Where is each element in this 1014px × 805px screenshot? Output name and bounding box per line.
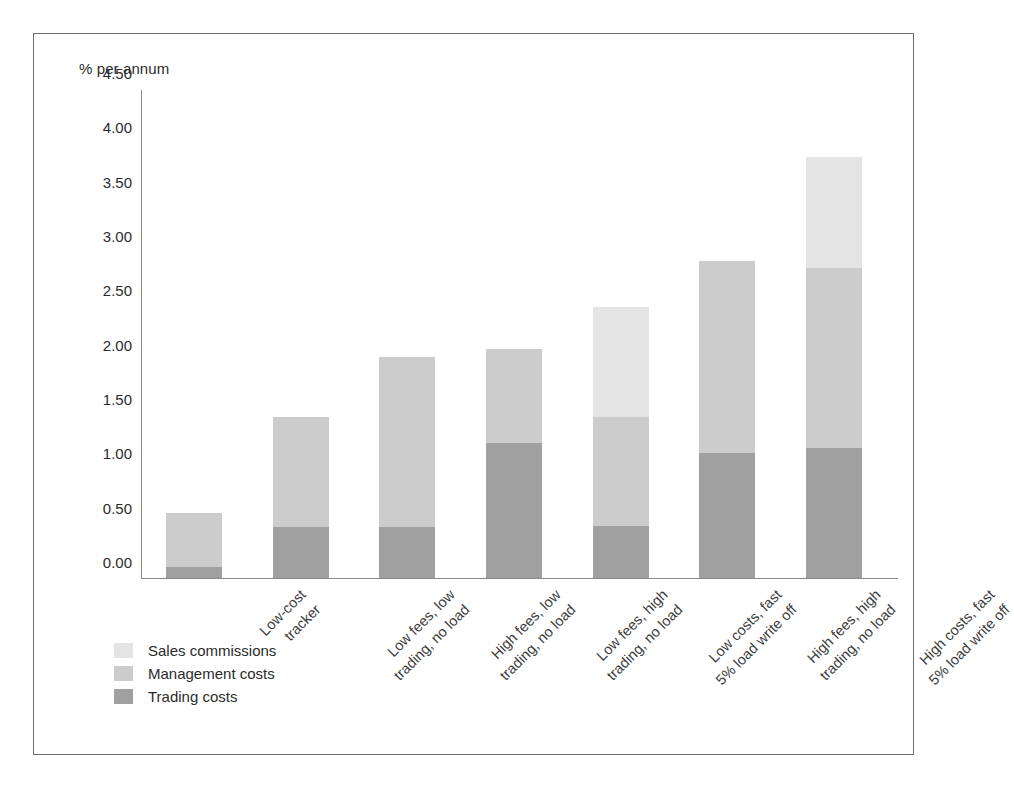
- bar-slot: [379, 90, 435, 578]
- bar-slot: [486, 90, 542, 578]
- chart-figure: % per annum 4.504.003.503.002.502.001.50…: [33, 33, 914, 755]
- bar-segment-trading-costs[interactable]: [806, 448, 862, 578]
- legend-swatch: [114, 689, 133, 704]
- y-axis-tick-label: 2.00: [103, 336, 132, 353]
- x-axis-category-label: Low fees, hightrading, no load: [587, 585, 687, 685]
- bar-segment-sales-commissions[interactable]: [806, 157, 862, 268]
- bar-segment-management-costs[interactable]: [379, 357, 435, 527]
- x-axis-category-label: High costs, fast5% load write off: [909, 585, 1014, 690]
- y-axis-tick-label: 4.50: [103, 65, 132, 82]
- y-axis-tick-label: 1.00: [103, 445, 132, 462]
- bar-slot: [806, 90, 862, 578]
- cut-off-caption-sliver: [470, 0, 770, 7]
- bar-segment-management-costs[interactable]: [486, 349, 542, 444]
- y-axis-tick-label: 4.00: [103, 119, 132, 136]
- stacked-bar[interactable]: [273, 417, 329, 578]
- legend-swatch: [114, 643, 133, 658]
- bar-slot: [593, 90, 649, 578]
- bar-segment-trading-costs[interactable]: [593, 526, 649, 578]
- bar-segment-trading-costs[interactable]: [379, 527, 435, 578]
- legend-label: Trading costs: [148, 688, 237, 705]
- x-axis-category-label: High fees, hightrading, no load: [800, 585, 900, 685]
- bar-segment-management-costs[interactable]: [699, 261, 755, 453]
- bar-segment-trading-costs[interactable]: [273, 527, 329, 578]
- y-axis-tick-label: 3.50: [103, 173, 132, 190]
- y-axis-tick-label: 2.50: [103, 282, 132, 299]
- y-axis-tick-label: 0.50: [103, 499, 132, 516]
- stacked-bar[interactable]: [379, 357, 435, 578]
- y-axis-tick-label: 1.50: [103, 391, 132, 408]
- bar-slot: [273, 90, 329, 578]
- chart-legend: Sales commissionsManagement costsTrading…: [114, 639, 276, 708]
- legend-label: Management costs: [148, 665, 275, 682]
- stacked-bar[interactable]: [699, 261, 755, 578]
- legend-item[interactable]: Sales commissions: [114, 639, 276, 662]
- legend-label: Sales commissions: [148, 642, 276, 659]
- legend-swatch: [114, 666, 133, 681]
- x-axis-category-label: Low costs, fast5% load write off: [696, 585, 801, 690]
- bar-segment-management-costs[interactable]: [273, 417, 329, 527]
- legend-item[interactable]: Trading costs: [114, 685, 276, 708]
- x-axis-category-label: Low fees, lowtrading, no load: [374, 585, 474, 685]
- y-axis-tick-label: 0.00: [103, 554, 132, 571]
- stacked-bar[interactable]: [166, 513, 222, 578]
- stacked-bar[interactable]: [486, 349, 542, 578]
- bar-segment-management-costs[interactable]: [593, 417, 649, 526]
- legend-item[interactable]: Management costs: [114, 662, 276, 685]
- bar-segment-management-costs[interactable]: [166, 513, 222, 567]
- bar-segment-management-costs[interactable]: [806, 268, 862, 447]
- bar-segment-trading-costs[interactable]: [699, 453, 755, 578]
- bar-group: [141, 90, 887, 578]
- bar-segment-trading-costs[interactable]: [166, 567, 222, 578]
- bar-slot: [166, 90, 222, 578]
- x-axis-line: [141, 578, 898, 579]
- y-axis-tick-label: 3.00: [103, 228, 132, 245]
- stacked-bar[interactable]: [806, 157, 862, 578]
- plot-area: 4.504.003.503.002.502.001.501.000.500.00: [141, 90, 887, 579]
- x-axis-category-label: High fees, lowtrading, no load: [481, 585, 581, 685]
- stacked-bar[interactable]: [593, 307, 649, 578]
- bar-segment-sales-commissions[interactable]: [593, 307, 649, 417]
- bar-segment-trading-costs[interactable]: [486, 443, 542, 578]
- bar-slot: [699, 90, 755, 578]
